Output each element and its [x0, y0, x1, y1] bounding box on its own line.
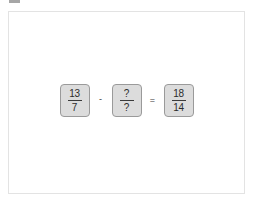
content-frame: 13 7 - ? ? = 18 14	[8, 11, 245, 194]
fraction-box-result[interactable]: 18 14	[164, 84, 194, 117]
fraction-numerator: 18	[173, 88, 184, 99]
equation-area: 13 7 - ? ? = 18 14	[9, 12, 244, 193]
fraction-box-unknown[interactable]: ? ?	[112, 84, 142, 117]
equation-row: 13 7 - ? ? = 18 14	[57, 84, 197, 117]
fraction-bar	[68, 100, 82, 101]
fraction-denominator: 7	[72, 102, 77, 113]
fraction-numerator: 13	[69, 88, 80, 99]
fraction-denominator: 14	[173, 102, 184, 113]
fraction-denominator: ?	[124, 102, 129, 113]
fraction-bar	[120, 100, 134, 101]
fraction-box-first[interactable]: 13 7	[60, 84, 90, 117]
minus-operator: -	[98, 95, 104, 104]
fraction-numerator: ?	[124, 88, 129, 99]
equals-operator: =	[150, 96, 156, 105]
fraction-bar	[172, 100, 186, 101]
top-left-gray-bar	[9, 0, 20, 3]
